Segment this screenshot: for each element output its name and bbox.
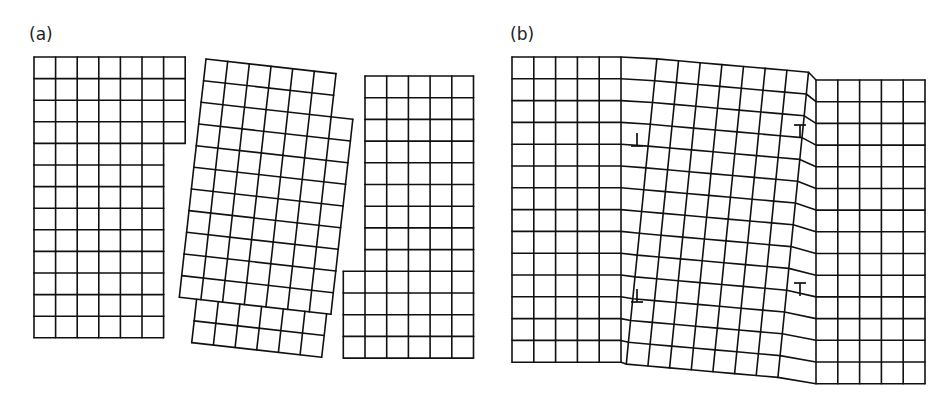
- middle-grain-rotated: [179, 59, 352, 357]
- lattice-row-line: [512, 210, 925, 232]
- edge-dislocation-up-icon: [631, 133, 643, 146]
- lattice-row-line: [512, 275, 925, 297]
- lattice-row-line: [512, 166, 925, 189]
- panel-b-joined-lattice: [512, 57, 925, 384]
- left-grain: [34, 57, 185, 338]
- lattice-row-line: [512, 231, 925, 253]
- lattice-row-line: [512, 362, 925, 384]
- grain-boundary-diagram: [0, 0, 946, 394]
- lattice-row-line: [512, 340, 925, 362]
- panel-a-separate-grains: [34, 57, 474, 358]
- lattice-row-line: [512, 144, 925, 167]
- edge-dislocation-down-icon: [794, 125, 806, 138]
- right-grain: [343, 76, 473, 358]
- lattice-row-line: [512, 122, 925, 145]
- lattice-row-line: [512, 253, 925, 275]
- lattice-row-line: [512, 57, 925, 80]
- lattice-row-line: [512, 188, 925, 210]
